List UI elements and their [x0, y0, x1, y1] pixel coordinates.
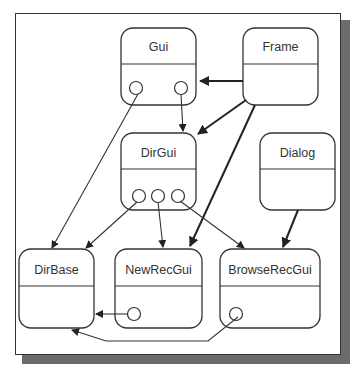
node-dirbase[interactable]: DirBase [19, 249, 94, 328]
edge-dirgui-browserecgui [180, 201, 244, 248]
port-icon [152, 190, 165, 203]
node-label: DirGui [141, 146, 176, 160]
edge-frame-newrecgui [190, 105, 255, 246]
node-label: NewRecGui [125, 263, 192, 277]
node-label: DirBase [34, 263, 79, 277]
node-browserecgui[interactable]: BrowseRecGui [220, 249, 320, 328]
port-icon [133, 190, 146, 203]
node-label: Frame [262, 40, 298, 54]
edge-frame-dirgui [198, 100, 246, 134]
port-icon [175, 82, 188, 95]
class-diagram: Gui Frame DirGui Dialog DirBase NewRecGu… [0, 0, 362, 374]
node-dirgui[interactable]: DirGui [121, 133, 196, 210]
node-gui[interactable]: Gui [121, 28, 196, 105]
edge-dirgui-dirbase [86, 202, 137, 248]
node-label: BrowseRecGui [228, 263, 311, 277]
node-dialog[interactable]: Dialog [260, 133, 335, 210]
port-icon [128, 308, 141, 321]
port-icon [130, 82, 143, 95]
edge-dialog-browserecgui [283, 210, 298, 247]
port-icon [172, 190, 185, 203]
node-label: Dialog [280, 146, 315, 160]
node-label: Gui [149, 40, 168, 54]
node-frame[interactable]: Frame [243, 28, 318, 105]
node-newrecgui[interactable]: NewRecGui [115, 249, 202, 328]
